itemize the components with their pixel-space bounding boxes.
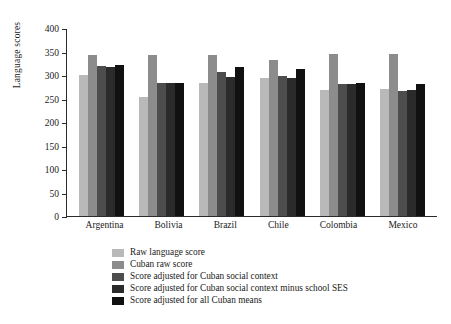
bar-chart: Language scores 400350300250200150100500… — [0, 0, 451, 324]
bar — [217, 72, 226, 216]
bar — [389, 54, 398, 216]
legend-item: Score adjusted for Cuban social context — [112, 271, 348, 282]
bar — [338, 84, 347, 216]
bar — [88, 55, 97, 216]
bar — [380, 89, 389, 216]
bar — [416, 84, 425, 216]
bar — [226, 77, 235, 216]
bar-group — [139, 29, 184, 216]
bar — [175, 83, 184, 216]
bar — [106, 67, 115, 216]
legend-item: Raw language score — [112, 247, 348, 258]
bar-group — [260, 29, 305, 216]
x-axis-label: Brazil — [214, 220, 237, 230]
legend-swatch-icon — [112, 297, 124, 305]
legend-label: Score adjusted for all Cuban means — [130, 295, 262, 306]
x-axis-label: Chile — [268, 220, 289, 230]
x-axis-label: Colombia — [320, 220, 357, 230]
legend-label: Score adjusted for Cuban social context — [130, 271, 278, 282]
bar — [139, 97, 148, 216]
bar — [208, 55, 217, 216]
bar — [329, 54, 338, 216]
y-tick-label: 250 — [45, 95, 59, 105]
bar — [260, 78, 269, 216]
bar — [269, 60, 278, 216]
bar-group — [79, 29, 124, 216]
bar — [235, 67, 244, 216]
bar — [356, 83, 365, 216]
bar-groups — [67, 29, 437, 216]
x-axis-label: Mexico — [388, 220, 417, 230]
legend-swatch-icon — [112, 273, 124, 281]
y-tick-label: 150 — [45, 142, 59, 152]
y-tick-label: 50 — [50, 189, 60, 199]
bar-group — [320, 29, 365, 216]
legend-item: Score adjusted for Cuban social context … — [112, 283, 348, 294]
bar — [115, 65, 124, 216]
bar-group — [380, 29, 425, 216]
x-axis-labels: ArgentinaBoliviaBrazilChileColombiaMexic… — [66, 220, 437, 230]
bar — [296, 69, 305, 216]
bar — [157, 83, 166, 216]
y-axis-title: Language scores — [12, 0, 22, 120]
x-axis-label: Bolivia — [155, 220, 183, 230]
x-axis-label: Argentina — [86, 220, 124, 230]
y-tick-label: 0 — [54, 212, 59, 222]
bar — [97, 66, 106, 216]
y-tick-label: 100 — [45, 165, 59, 175]
legend-label: Score adjusted for Cuban social context … — [130, 283, 348, 294]
y-tick-label: 350 — [45, 48, 59, 58]
legend-swatch-icon — [112, 285, 124, 293]
legend-label: Raw language score — [130, 247, 205, 258]
bar — [398, 91, 407, 216]
y-tick — [62, 217, 67, 218]
bar — [320, 90, 329, 216]
legend-item: Score adjusted for all Cuban means — [112, 295, 348, 306]
bar — [278, 76, 287, 216]
bar-group — [199, 29, 244, 216]
bar — [287, 78, 296, 216]
bar — [199, 83, 208, 216]
legend-item: Cuban raw score — [112, 259, 348, 270]
bar — [166, 83, 175, 216]
y-tick-label: 400 — [45, 24, 59, 34]
legend-swatch-icon — [112, 261, 124, 269]
bar — [407, 90, 416, 216]
y-tick-label: 300 — [45, 71, 59, 81]
bar — [79, 75, 88, 216]
y-tick-label: 200 — [45, 118, 59, 128]
plot-area: 400350300250200150100500 — [66, 29, 437, 217]
bar — [347, 84, 356, 216]
bar — [148, 55, 157, 216]
legend-swatch-icon — [112, 249, 124, 257]
legend-label: Cuban raw score — [130, 259, 192, 270]
chart-legend: Raw language scoreCuban raw scoreScore a… — [112, 247, 348, 306]
